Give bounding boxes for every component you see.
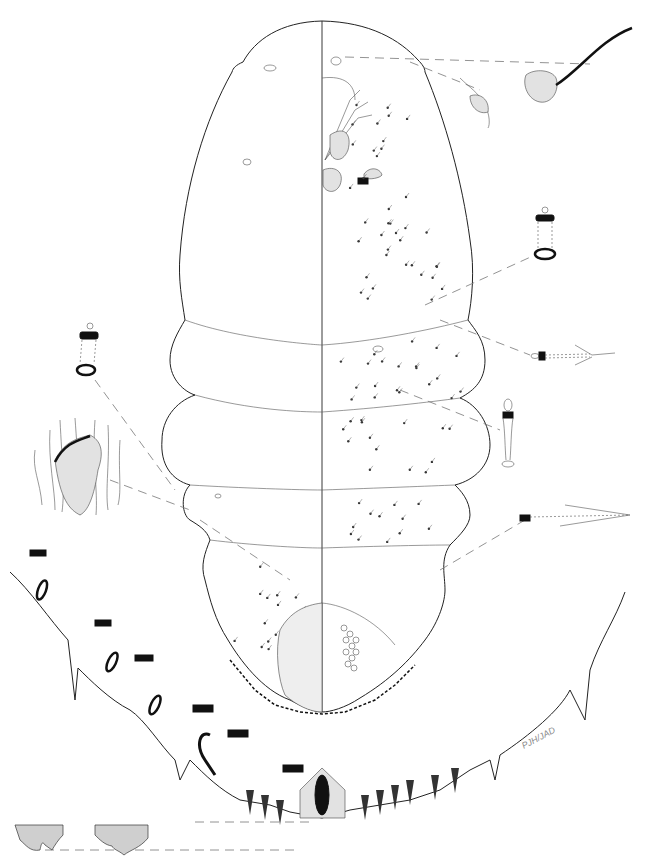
seta-shaft: [375, 393, 378, 397]
seta-shaft: [412, 261, 415, 265]
seta-shaft: [433, 274, 436, 278]
median-lobes-detail: [15, 825, 148, 855]
seta-shaft: [383, 137, 386, 141]
seta-shaft: [267, 594, 270, 598]
gland-spines: [246, 768, 459, 825]
seta-shaft: [341, 358, 344, 362]
seta-shaft: [376, 445, 379, 449]
seta-shaft: [399, 362, 402, 366]
seta-shaft: [394, 501, 397, 505]
scale-insect-illustration: [0, 0, 656, 868]
seta-shaft: [368, 295, 371, 299]
body-outline: [162, 21, 490, 712]
seta-shaft: [389, 112, 392, 116]
seta-shaft: [353, 120, 356, 124]
seta-shaft: [351, 417, 354, 421]
derm-sclerotization-left: [34, 418, 120, 515]
seta-shaft: [457, 352, 460, 356]
seta-shaft: [406, 261, 409, 265]
seta-shaft: [371, 510, 374, 514]
gland-spine: [391, 785, 399, 810]
seta-shaft: [397, 386, 400, 390]
seta-shaft: [443, 424, 446, 428]
seta-shaft: [407, 115, 410, 119]
seta-shaft: [400, 236, 403, 240]
spiracle: [364, 169, 382, 179]
pygidium: [230, 603, 415, 714]
seta-shaft: [260, 563, 263, 567]
seta-shaft: [352, 395, 355, 399]
antenna-base: [331, 57, 341, 65]
ventral-microduct-right: [531, 345, 615, 365]
seta-shaft: [387, 538, 390, 542]
gland-spine: [276, 800, 284, 825]
seta-shaft: [235, 637, 238, 641]
seta-shaft: [412, 337, 415, 341]
seta-shaft: [461, 388, 464, 392]
seta-shaft: [421, 271, 424, 275]
seta-shaft: [450, 425, 453, 429]
seta-shaft: [269, 645, 272, 649]
seta-shaft: [405, 224, 408, 228]
seta-shaft: [265, 619, 268, 623]
seta-shaft: [388, 246, 391, 250]
seta-shaft: [368, 360, 371, 364]
seta-shaft: [416, 363, 419, 367]
seta-shaft: [386, 251, 389, 255]
seta-shaft: [348, 437, 351, 441]
seta-shaft: [377, 152, 380, 156]
seta-shaft: [359, 237, 362, 241]
seta-shaft: [432, 458, 435, 462]
seta-shaft: [370, 466, 373, 470]
seta-shaft: [396, 229, 399, 233]
seta-shaft: [262, 643, 265, 647]
seta-shaft: [370, 434, 373, 438]
seta-shaft: [381, 145, 384, 149]
setae-dots: [233, 101, 463, 650]
seta-shaft: [296, 593, 299, 597]
seta-shaft: [400, 529, 403, 533]
seta-shaft: [437, 374, 440, 378]
seta-shaft: [406, 193, 409, 197]
gland-spine: [451, 768, 459, 793]
seta-shaft: [276, 631, 279, 635]
seta-shaft: [432, 296, 435, 300]
seta-shaft: [365, 218, 368, 222]
seta-shaft: [375, 382, 378, 386]
seta-shaft: [380, 512, 383, 516]
seta-shaft: [442, 285, 445, 289]
seta-shaft: [359, 499, 362, 503]
seta-shaft: [353, 523, 356, 527]
seta-shaft: [268, 638, 271, 642]
seta-shaft: [382, 357, 385, 361]
seta-shaft: [353, 140, 356, 144]
seta-shaft: [419, 500, 422, 504]
leader-lines: [45, 57, 590, 850]
seta-shaft: [373, 284, 376, 288]
gland-spine: [376, 790, 384, 815]
antenna-detail: [525, 28, 632, 102]
dorsal-duct-left: [77, 323, 98, 375]
seta-shaft: [356, 384, 359, 388]
median-lobe: [315, 775, 329, 815]
seta-shaft: [452, 394, 455, 398]
gland-spine: [431, 775, 439, 800]
seta-shaft: [427, 229, 430, 233]
seta-shaft: [410, 466, 413, 470]
seta-shaft: [374, 147, 377, 151]
perivulvar-pores: [341, 625, 359, 671]
seta-shaft: [426, 468, 429, 472]
seta-shaft: [437, 344, 440, 348]
seta-shaft: [381, 231, 384, 235]
mouthparts: [215, 57, 383, 498]
gland-spine: [406, 780, 414, 805]
seta-shaft: [361, 289, 364, 293]
seta-shaft: [377, 120, 380, 124]
spiracle-detail: [460, 78, 489, 128]
ventral-duct-right: [502, 399, 514, 467]
seta-shaft: [357, 101, 360, 105]
seta-shaft: [277, 591, 280, 595]
dorsal-duct-upper-right: [535, 207, 555, 259]
seta-shaft: [350, 184, 353, 188]
seta-shaft: [351, 530, 354, 534]
